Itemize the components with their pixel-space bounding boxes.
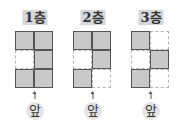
filled-cube-cell xyxy=(150,50,169,69)
empty-cell xyxy=(73,50,92,69)
filled-cube-cell xyxy=(131,31,150,50)
empty-cell xyxy=(15,50,34,69)
floor-grid xyxy=(131,31,169,88)
front-label: 앞 xyxy=(142,102,160,120)
arrow-up-icon xyxy=(35,93,36,99)
filled-cube-cell xyxy=(15,31,34,50)
floor-grid xyxy=(73,31,111,88)
filled-cube-cell xyxy=(73,69,92,88)
front-label: 앞 xyxy=(84,102,102,120)
floor-panel-3: 3층 앞 xyxy=(131,0,171,131)
empty-cell xyxy=(150,31,169,50)
arrow-up-icon xyxy=(151,93,152,99)
empty-cell xyxy=(150,69,169,88)
floor-title: 1층 xyxy=(22,10,47,25)
floor-title: 3층 xyxy=(138,10,163,25)
arrow-up-icon xyxy=(93,93,94,99)
floor-panel-2: 2층 앞 xyxy=(73,0,113,131)
empty-cell xyxy=(92,69,111,88)
empty-cell xyxy=(131,50,150,69)
filled-cube-cell xyxy=(34,69,53,88)
filled-cube-cell xyxy=(34,31,53,50)
filled-cube-cell xyxy=(92,50,111,69)
floor-panel-1: 1층 앞 xyxy=(15,0,55,131)
filled-cube-cell xyxy=(73,31,92,50)
floor-title: 2층 xyxy=(80,10,105,25)
filled-cube-cell xyxy=(34,50,53,69)
front-label: 앞 xyxy=(26,102,44,120)
filled-cube-cell xyxy=(131,69,150,88)
floor-grid xyxy=(15,31,53,88)
filled-cube-cell xyxy=(15,69,34,88)
filled-cube-cell xyxy=(92,31,111,50)
